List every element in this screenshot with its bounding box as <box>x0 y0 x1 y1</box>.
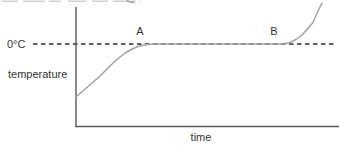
heating-curve-chart: 0°C temperature time A B <box>0 0 339 145</box>
cropped-text-remnant <box>2 0 140 2</box>
x-axis-label: time <box>191 131 212 143</box>
zero-celsius-label: 0°C <box>7 38 26 50</box>
point-b-label: B <box>270 25 277 37</box>
y-axis-label: temperature <box>8 68 67 80</box>
point-a-label: A <box>136 25 144 37</box>
heating-curve-figure: 0°C temperature time A B <box>0 0 339 145</box>
temperature-curve <box>76 3 322 97</box>
